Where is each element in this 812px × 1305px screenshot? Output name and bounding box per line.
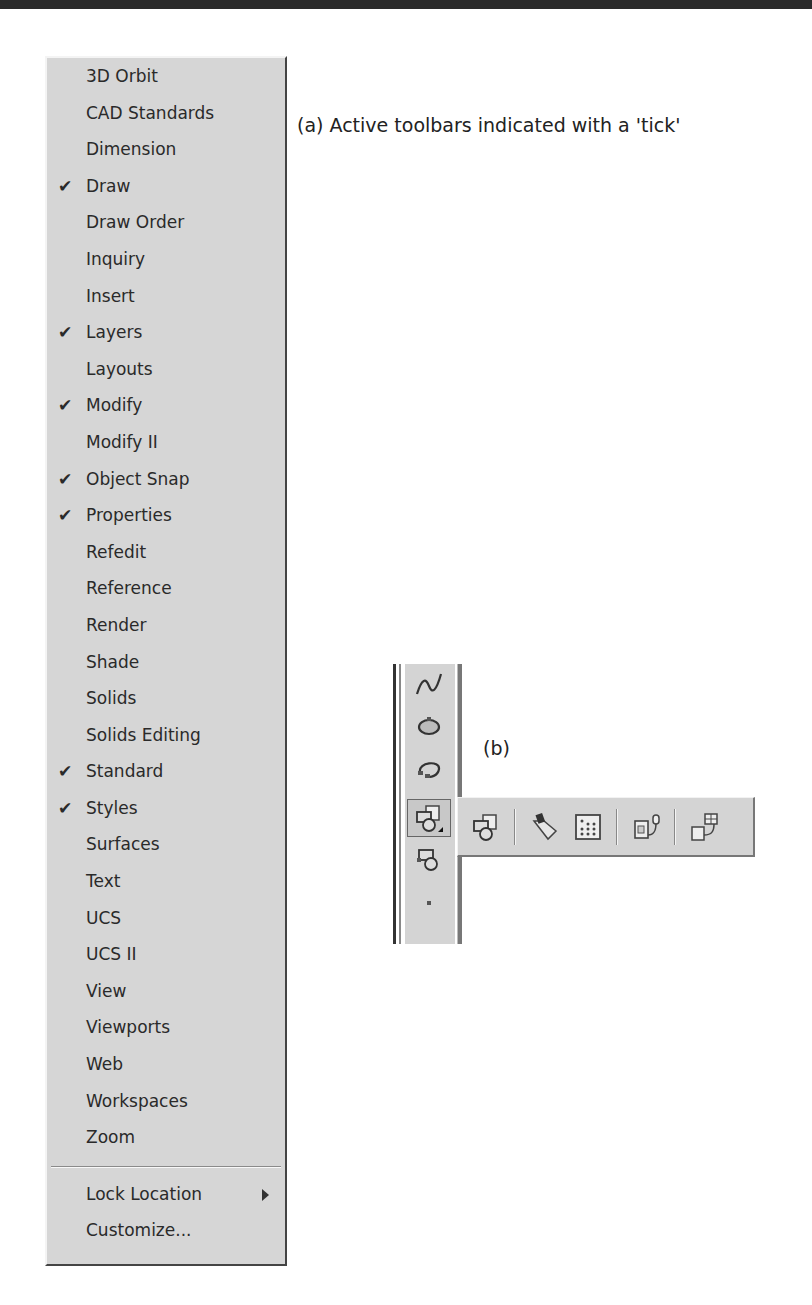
menu-item-label: Surfaces [86,834,160,854]
gradient-icon [572,811,604,843]
toolbar-edge [393,664,396,944]
menu-item-modify[interactable]: ✔Modify [47,387,285,424]
caption-a: (a) Active toolbars indicated with a 'ti… [297,114,680,136]
menu-item-view[interactable]: View [47,973,285,1010]
menu-item-dimension[interactable]: Dimension [47,131,285,168]
external-reference-icon [630,811,662,843]
external-reference-button[interactable] [624,805,668,849]
ellipse-arc-button[interactable] [407,750,451,788]
menu-item-3d-orbit[interactable]: 3D Orbit [47,58,285,95]
menu-item-label: Insert [86,286,135,306]
menu-item-viewports[interactable]: Viewports [47,1009,285,1046]
toolbar-separator [674,809,676,845]
insert-block-button[interactable] [464,805,508,849]
table-link-button[interactable] [682,805,726,849]
menu-item-label: Properties [86,505,172,525]
menu-item-shade[interactable]: Shade [47,644,285,681]
menu-item-label: View [86,981,126,1001]
check-icon: ✔ [58,753,78,790]
table-link-icon [688,811,720,843]
menu-item-label: Render [86,615,147,635]
menu-item-text[interactable]: Text [47,863,285,900]
menu-item-layers[interactable]: ✔Layers [47,314,285,351]
menu-item-label: Standard [86,761,163,781]
make-block-icon [414,845,444,875]
menu-item-customize[interactable]: Customize... [47,1212,285,1249]
menu-item-solids-editing[interactable]: Solids Editing [47,717,285,754]
menu-item-reference[interactable]: Reference [47,570,285,607]
menu-item-inquiry[interactable]: Inquiry [47,241,285,278]
menu-item-label: Layers [86,322,142,342]
menu-item-zoom[interactable]: Zoom [47,1119,285,1156]
point-icon [414,888,444,918]
menu-item-label: Styles [86,798,138,818]
hatch-button[interactable] [522,805,566,849]
menu-item-lock-location[interactable]: Lock Location [47,1176,285,1213]
menu-item-label: CAD Standards [86,103,214,123]
toolbar-separator [514,809,516,845]
menu-item-label: UCS [86,908,121,928]
menu-item-render[interactable]: Render [47,607,285,644]
menu-item-label: Layouts [86,359,153,379]
check-icon: ✔ [58,790,78,827]
caption-b: (b) [483,737,510,759]
menu-item-draw[interactable]: ✔Draw [47,168,285,205]
menu-item-list: 3D OrbitCAD StandardsDimension✔DrawDraw … [47,58,285,1156]
insert-block-flyout-button[interactable] [407,799,451,837]
hatch-brush-icon [528,811,560,843]
ellipse-button[interactable] [407,708,451,746]
menu-separator [51,1166,281,1168]
check-icon: ✔ [58,497,78,534]
menu-item-workspaces[interactable]: Workspaces [47,1083,285,1120]
menu-item-label: Refedit [86,542,146,562]
menu-item-label: Reference [86,578,172,598]
menu-item-layouts[interactable]: Layouts [47,351,285,388]
check-icon: ✔ [58,387,78,424]
menu-item-label: Dimension [86,139,176,159]
menu-item-web[interactable]: Web [47,1046,285,1083]
gradient-button[interactable] [566,805,610,849]
menu-item-solids[interactable]: Solids [47,680,285,717]
menu-item-label: Shade [86,652,139,672]
menu-item-surfaces[interactable]: Surfaces [47,826,285,863]
menu-item-label: Lock Location [86,1184,202,1204]
point-button[interactable] [407,884,451,922]
insert-block-icon [470,811,502,843]
menu-item-ucs[interactable]: UCS [47,900,285,937]
menu-item-label: UCS II [86,944,137,964]
menu-item-label: 3D Orbit [86,66,158,86]
check-icon: ✔ [58,168,78,205]
toolbars-context-menu: 3D OrbitCAD StandardsDimension✔DrawDraw … [45,56,287,1266]
insert-block-icon [413,802,445,834]
menu-item-label: Solids Editing [86,725,201,745]
top-border-bar [0,0,812,9]
menu-item-label: Customize... [86,1220,191,1240]
ellipse-arc-icon [414,754,444,784]
menu-item-label: Viewports [86,1017,170,1037]
menu-item-label: Inquiry [86,249,145,269]
menu-item-properties[interactable]: ✔Properties [47,497,285,534]
menu-item-label: Zoom [86,1127,135,1147]
menu-item-label: Draw Order [86,212,184,232]
menu-item-insert[interactable]: Insert [47,278,285,315]
menu-item-label: Draw [86,176,130,196]
menu-item-object-snap[interactable]: ✔Object Snap [47,461,285,498]
submenu-arrow-icon [262,1189,269,1201]
spline-icon [414,670,444,700]
make-block-button[interactable] [407,841,451,879]
menu-item-styles[interactable]: ✔Styles [47,790,285,827]
menu-item-cad-standards[interactable]: CAD Standards [47,95,285,132]
menu-item-draw-order[interactable]: Draw Order [47,204,285,241]
menu-item-modify-ii[interactable]: Modify II [47,424,285,461]
menu-item-refedit[interactable]: Refedit [47,534,285,571]
ellipse-icon [414,712,444,742]
menu-item-ucs-ii[interactable]: UCS II [47,936,285,973]
menu-item-label: Solids [86,688,136,708]
menu-item-standard[interactable]: ✔Standard [47,753,285,790]
insert-flyout-toolbar [457,797,755,857]
spline-button[interactable] [407,666,451,704]
menu-item-label: Modify [86,395,142,415]
menu-item-label: Modify II [86,432,158,452]
draw-toolbar-vertical [393,664,466,944]
menu-item-label: Text [86,871,120,891]
